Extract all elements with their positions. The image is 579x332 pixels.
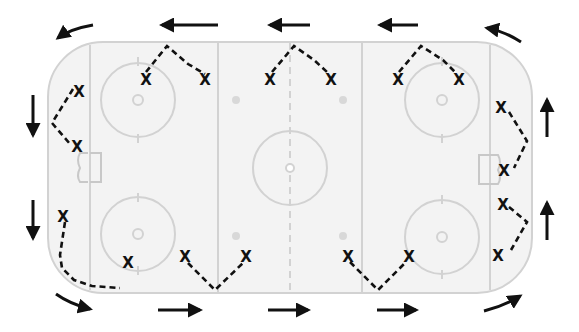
arrow-top-right-curve-icon: [487, 28, 521, 42]
player-marker: X: [264, 71, 276, 89]
player-marker: X: [57, 208, 69, 226]
player-marker: X: [240, 248, 252, 266]
player-marker: X: [492, 247, 504, 265]
player-marker: X: [498, 162, 510, 180]
arrow-top-left-curve-icon: [58, 25, 93, 38]
player-marker: X: [495, 99, 507, 117]
neutral-zone-dot: [232, 96, 240, 104]
neutral-zone-dot: [339, 96, 347, 104]
player-marker: X: [497, 196, 509, 214]
player-marker: X: [453, 71, 465, 89]
hockey-rink-diagram: XXXXXXXXXXXXXXXXXX: [0, 0, 579, 332]
player-marker: X: [73, 83, 85, 101]
player-marker: X: [342, 248, 354, 266]
player-marker: X: [122, 254, 134, 272]
center-faceoff-dot: [286, 164, 294, 172]
player-marker: X: [199, 71, 211, 89]
player-marker: X: [403, 248, 415, 266]
arrow-bottom-left-curve-icon: [56, 294, 90, 309]
player-marker: X: [179, 248, 191, 266]
arrow-bottom-right-curve-icon: [484, 296, 520, 311]
neutral-zone-dot: [232, 232, 240, 240]
neutral-zone-dot: [339, 232, 347, 240]
player-marker: X: [71, 138, 83, 156]
player-marker: X: [392, 71, 404, 89]
player-marker: X: [325, 71, 337, 89]
player-marker: X: [140, 71, 152, 89]
